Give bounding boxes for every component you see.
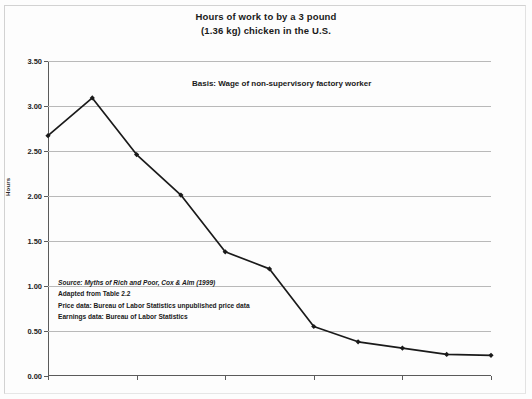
x-tick-mark (491, 376, 492, 380)
data-point-marker (488, 353, 493, 358)
y-tick-label: 1.00 (12, 282, 42, 291)
source-line-1-text: Source: Myths of Rich and Poor, Cox & Al… (58, 279, 215, 286)
x-tick-mark (402, 376, 403, 380)
y-tick-label: 0.00 (12, 372, 42, 381)
y-tick-label: 3.00 (12, 102, 42, 111)
chart-figure: Hours of work to by a 3 pound (1.36 kg) … (0, 0, 532, 399)
data-point-marker (356, 339, 361, 344)
x-tick-mark (137, 376, 138, 380)
source-line-4: Earnings data: Bureau of Labor Statistic… (58, 311, 250, 322)
source-line-3: Price data: Bureau of Labor Statistics u… (58, 300, 250, 311)
source-annotation: Source: Myths of Rich and Poor, Cox & Al… (58, 277, 250, 323)
y-axis-label: Hours (5, 178, 11, 196)
y-tick-label: 0.50 (12, 327, 42, 336)
y-tick-label: 3.50 (12, 57, 42, 66)
plot-area: 0.000.501.001.502.002.503.003.50 1900192… (48, 61, 491, 376)
chart-title-line-2: (1.36 kg) chicken in the U.S. (0, 24, 532, 38)
x-tick-mark (48, 376, 49, 380)
x-tick-mark (225, 376, 226, 380)
y-tick-label: 2.50 (12, 147, 42, 156)
source-line-2: Adapted from Table 2.2 (58, 288, 250, 299)
data-point-marker (400, 346, 405, 351)
data-point-marker (444, 352, 449, 357)
data-series-chicken-hours (48, 61, 491, 376)
y-tick-label: 2.00 (12, 192, 42, 201)
x-tick-mark (314, 376, 315, 380)
chart-title-line-1: Hours of work to by a 3 pound (0, 10, 532, 24)
source-line-1: Source: Myths of Rich and Poor, Cox & Al… (58, 277, 250, 288)
chart-title: Hours of work to by a 3 pound (1.36 kg) … (0, 10, 532, 38)
y-tick-label: 1.50 (12, 237, 42, 246)
